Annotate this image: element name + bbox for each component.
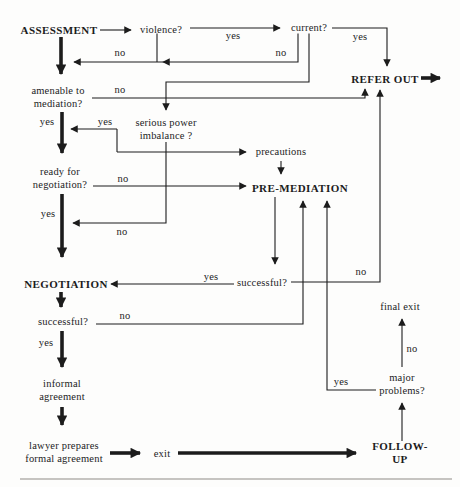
edge-label-violence-yes: yes — [226, 30, 241, 43]
edge-label-current-yes: yes — [353, 31, 368, 44]
node-imbalance: serious power imbalance ? — [135, 117, 196, 142]
node-lawyer-prepares: lawyer prepares formal agreement — [25, 440, 103, 465]
edge-label-imbalance-no: no — [117, 226, 128, 239]
edge-label-amenable-yes: yes — [40, 116, 55, 129]
node-pm-successful: successful? — [237, 277, 287, 290]
edge-label-major-problems-yes: yes — [334, 376, 349, 389]
node-negotiation: NEGOTIATION — [24, 278, 108, 291]
node-final-exit: final exit — [380, 301, 420, 314]
edge-label-neg-successful-no: no — [120, 310, 131, 323]
edge-label-pm-successful-no: no — [356, 266, 367, 279]
edge-label-violence-no: no — [115, 47, 126, 60]
node-refer-out: REFER OUT — [351, 73, 418, 86]
node-assessment: ASSESSMENT — [21, 24, 98, 37]
edge-label-ready-yes: yes — [41, 208, 56, 221]
edge-label-neg-successful-yes: yes — [39, 337, 54, 350]
edge-label-current-no: no — [276, 47, 287, 60]
node-neg-successful: successful? — [38, 316, 88, 329]
edge-label-amenable-no: no — [115, 84, 126, 97]
edge-label-major-problems-no: no — [407, 343, 418, 356]
edge-label-ready-no: no — [118, 173, 129, 186]
node-current: current? — [291, 22, 327, 35]
edge-label-pm-successful-yes: yes — [204, 271, 219, 284]
node-precautions: precautions — [256, 146, 307, 159]
node-pre-mediation: PRE-MEDIATION — [252, 182, 348, 195]
node-major-problems: major problems? — [379, 372, 425, 397]
node-violence: violence? — [140, 24, 182, 37]
edge-label-imbalance-yes: yes — [98, 116, 113, 129]
node-exit: exit — [154, 448, 171, 461]
mediation-flowchart: ASSESSMENT violence? current? REFER OUT … — [0, 0, 460, 487]
node-amenable: amenable to mediation? — [31, 85, 84, 110]
node-follow-up: FOLLOW-UP — [370, 440, 430, 465]
node-informal-agreement: informal agreement — [39, 378, 85, 403]
node-ready: ready for negotiation? — [33, 166, 87, 191]
